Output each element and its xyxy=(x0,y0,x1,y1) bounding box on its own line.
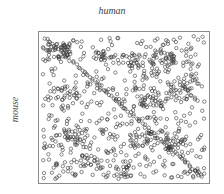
chart-title: human xyxy=(0,5,224,16)
dot-plot xyxy=(39,32,209,183)
plot-area xyxy=(38,31,210,184)
y-axis-label: mouse xyxy=(9,90,20,130)
